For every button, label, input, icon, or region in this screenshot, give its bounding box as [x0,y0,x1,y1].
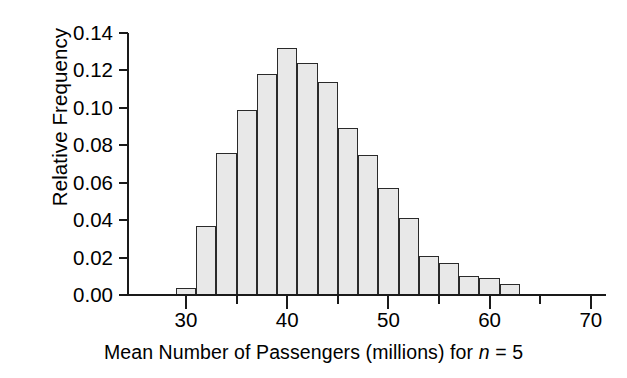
histogram-bar [439,263,459,295]
x-tick-label-70: 70 [579,310,602,331]
x-tick-label-40: 40 [276,310,299,331]
x-axis-label: Mean Number of Passengers (millions) for… [0,341,627,364]
histogram-bar [297,63,317,295]
histogram-bar [479,278,499,295]
histogram-bar [216,153,236,295]
histogram-bar [358,155,378,295]
x-minor-tick-35 [236,296,238,304]
histogram-chart: Relative Frequency 0.000.020.040.060.080… [0,0,627,378]
histogram-bar [318,82,338,295]
histogram-bar [277,48,297,295]
x-axis-label-italic-n: n [479,341,490,363]
x-minor-tick-45 [337,296,339,304]
histogram-bar [399,218,419,295]
x-minor-tick-65 [539,296,541,304]
x-axis-label-after: = 5 [490,341,523,363]
histogram-bar [237,110,257,295]
histogram-bar [378,188,398,295]
histogram-bar [257,74,277,295]
histogram-bar [459,276,479,295]
x-axis-line [128,294,606,296]
histogram-bar [338,128,358,295]
histogram-bar [196,226,216,295]
plot-area [0,0,627,378]
histogram-bar [419,256,439,295]
x-tick-label-60: 60 [478,310,501,331]
x-tick-label-50: 50 [377,310,400,331]
x-axis-label-before: Mean Number of Passengers (millions) for [104,341,479,363]
x-minor-tick-55 [438,296,440,304]
x-tick-label-30: 30 [175,310,198,331]
